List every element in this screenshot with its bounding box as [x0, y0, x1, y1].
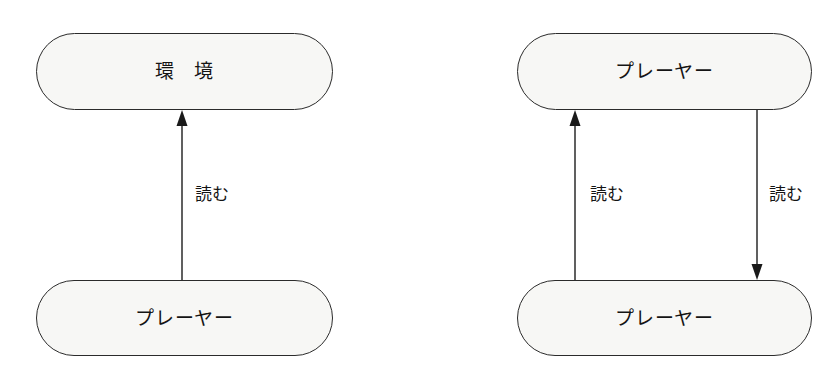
node-environment-left-label: 環 境: [155, 62, 215, 81]
node-environment-left[interactable]: 環 境: [36, 33, 333, 110]
node-player-right-top-label: プレーヤー: [615, 62, 714, 81]
edge-right-down: [752, 110, 763, 280]
diagram-canvas: 環 境 プレーヤー 読む プレーヤー プレーヤー 読む 読む: [0, 0, 834, 377]
node-player-right-bottom-label: プレーヤー: [615, 309, 714, 328]
edge-label-right-up: 読む: [590, 186, 624, 203]
diagram-right: プレーヤー プレーヤー 読む 読む: [417, 0, 834, 377]
edge-left-up: [177, 110, 188, 280]
node-player-right-top[interactable]: プレーヤー: [517, 33, 812, 110]
node-player-left-bottom-label: プレーヤー: [135, 309, 234, 328]
node-player-right-bottom[interactable]: プレーヤー: [517, 280, 812, 356]
edge-right-up: [570, 110, 581, 280]
edge-label-right-down: 読む: [769, 186, 803, 203]
edge-label-left-up: 読む: [195, 186, 229, 203]
node-player-left-bottom[interactable]: プレーヤー: [36, 280, 333, 356]
diagram-left: 環 境 プレーヤー 読む: [0, 0, 417, 377]
